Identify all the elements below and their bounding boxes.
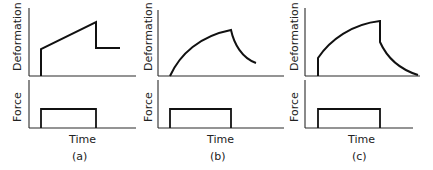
caption-a: (a) (72, 150, 87, 163)
creep-recovery-diagram: Deformation Force Time (a) Deformation F… (0, 0, 433, 170)
force-pulse-c (318, 109, 380, 128)
deformation-label-c: Deformation (288, 2, 301, 71)
deformation-label-b: Deformation (142, 2, 155, 71)
deformation-curve-b (170, 30, 256, 76)
force-label-b: Force (142, 92, 155, 122)
force-label-c: Force (288, 92, 301, 122)
deformation-curve-a (41, 22, 120, 76)
force-pulse-b (170, 109, 231, 128)
panel-a: Deformation Force Time (a) (11, 2, 136, 163)
caption-c: (c) (352, 150, 367, 163)
deformation-curve-c (318, 21, 418, 76)
deformation-label-a: Deformation (11, 2, 24, 71)
force-pulse-a (41, 109, 96, 128)
time-label-c: Time (347, 133, 375, 146)
panel-b: Deformation Force Time (b) (142, 2, 284, 163)
time-label-b: Time (206, 133, 234, 146)
time-label-a: Time (68, 133, 96, 146)
caption-b: (b) (210, 150, 226, 163)
panel-c: Deformation Force Time (c) (288, 2, 420, 163)
force-label-a: Force (11, 92, 24, 122)
